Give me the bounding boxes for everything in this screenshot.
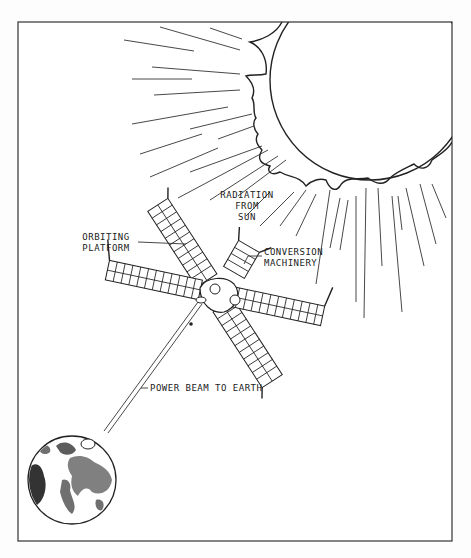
svg-text:SUN: SUN — [238, 212, 256, 222]
svg-text:ORBITING: ORBITING — [82, 232, 129, 242]
svg-text:CONVERSION: CONVERSION — [264, 247, 323, 257]
solar-power-satellite-diagram: RADIATION FROM SUN — [0, 0, 471, 558]
svg-text:MACHINERY: MACHINERY — [264, 258, 317, 268]
svg-text:PLATFORM: PLATFORM — [82, 243, 129, 253]
svg-text:POWER BEAM TO EARTH: POWER BEAM TO EARTH — [150, 383, 262, 393]
svg-text:RADIATION: RADIATION — [220, 190, 273, 200]
earth-icon — [28, 436, 116, 524]
svg-text:FROM: FROM — [235, 201, 259, 211]
